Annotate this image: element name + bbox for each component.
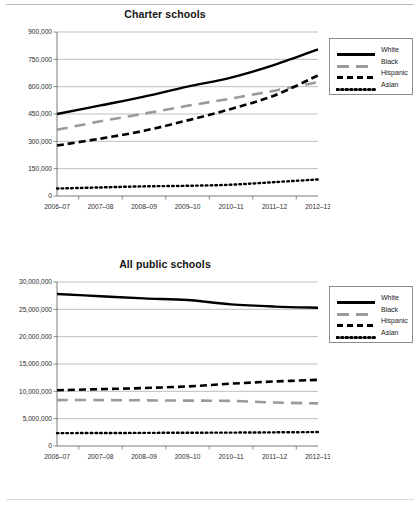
y-axis-tick-label: 5,000,000 — [23, 415, 53, 422]
legend-label: Hispanic — [381, 316, 408, 325]
top-divider-rule — [6, 4, 414, 5]
y-axis-tick-label: 750,000 — [28, 56, 52, 63]
legend-label: Black — [381, 305, 398, 314]
x-axis-tick-label: 2006–07 — [44, 453, 70, 460]
x-axis-tick-label: 2010–11 — [218, 203, 244, 210]
y-axis-tick-label: 15,000,000 — [19, 360, 52, 367]
y-axis-tick-label: 900,000 — [28, 28, 52, 35]
x-axis-tick-label: 2007–08 — [88, 203, 114, 210]
legend-item-white[interactable]: White — [336, 292, 406, 304]
series-line-asian — [57, 179, 318, 188]
y-axis-tick-label: 25,000,000 — [19, 306, 52, 313]
chart-title-allpublic: All public schools — [0, 258, 330, 270]
plot-area-allpublic: 05,000,00010,000,00015,000,00020,000,000… — [0, 276, 330, 476]
y-axis-tick-label: 150,000 — [28, 165, 52, 172]
x-axis-tick-label: 2012–13 — [305, 453, 330, 460]
legend-allpublic: WhiteBlackHispanicAsian — [329, 286, 413, 343]
legend-swatch-asian-icon — [336, 80, 376, 89]
plot-area-charter: 0150,000300,000450,000600,000750,000900,… — [0, 26, 330, 226]
legend-item-asian[interactable]: Asian — [336, 79, 406, 91]
chart-title-charter: Charter schools — [0, 8, 330, 20]
legend-charter: WhiteBlackHispanicAsian — [329, 38, 413, 95]
x-axis-tick-label: 2009–10 — [175, 203, 201, 210]
y-axis-tick-label: 600,000 — [28, 83, 52, 90]
legend-item-black[interactable]: Black — [336, 56, 406, 68]
legend-swatch-asian-icon — [336, 328, 376, 337]
y-axis-tick-label: 0 — [48, 192, 52, 199]
legend-item-hispanic[interactable]: Hispanic — [336, 67, 406, 79]
y-axis-tick-label: 300,000 — [28, 138, 52, 145]
x-axis-tick-label: 2011–12 — [262, 453, 288, 460]
legend-label: Black — [381, 57, 398, 66]
legend-swatch-hispanic-icon — [336, 316, 376, 325]
legend-item-asian[interactable]: Asian — [336, 327, 406, 339]
legend-label: Asian — [381, 328, 399, 337]
series-line-black — [57, 400, 318, 403]
series-line-hispanic — [57, 380, 318, 390]
figure-all-public-schools: All public schools 05,000,00010,000,0001… — [0, 258, 420, 498]
x-axis-tick-label: 2008–09 — [131, 453, 157, 460]
legend-swatch-black-icon — [336, 57, 376, 66]
x-axis-tick-label: 2009–10 — [175, 453, 201, 460]
legend-label: White — [381, 293, 399, 302]
x-axis-tick-label: 2011–12 — [262, 203, 288, 210]
line-chart-allpublic: 05,000,00010,000,00015,000,00020,000,000… — [0, 276, 330, 476]
legend-swatch-white-icon — [336, 293, 376, 302]
legend-swatch-white-icon — [336, 45, 376, 54]
y-axis-tick-label: 450,000 — [28, 110, 52, 117]
legend-swatch-hispanic-icon — [336, 68, 376, 77]
x-axis-tick-label: 2012–13 — [305, 203, 330, 210]
series-line-asian — [57, 432, 318, 433]
x-axis-tick-label: 2010–11 — [218, 453, 244, 460]
x-axis-tick-label: 2006–07 — [44, 203, 70, 210]
legend-item-white[interactable]: White — [336, 44, 406, 56]
y-axis-tick-label: 30,000,000 — [19, 278, 52, 285]
legend-item-black[interactable]: Black — [336, 304, 406, 316]
legend-label: White — [381, 45, 399, 54]
legend-label: Hispanic — [381, 68, 408, 77]
series-line-white — [57, 294, 318, 308]
legend-label: Asian — [381, 80, 399, 89]
bottom-divider-rule — [6, 499, 414, 500]
figure-charter-schools: Charter schools 0150,000300,000450,00060… — [0, 8, 420, 248]
y-axis-tick-label: 10,000,000 — [19, 388, 52, 395]
line-chart-charter: 0150,000300,000450,000600,000750,000900,… — [0, 26, 330, 226]
legend-item-hispanic[interactable]: Hispanic — [336, 315, 406, 327]
y-axis-tick-label: 0 — [48, 442, 52, 449]
legend-swatch-black-icon — [336, 305, 376, 314]
x-axis-tick-label: 2008–09 — [131, 203, 157, 210]
x-axis-tick-label: 2007–08 — [88, 453, 114, 460]
y-axis-tick-label: 20,000,000 — [19, 333, 52, 340]
